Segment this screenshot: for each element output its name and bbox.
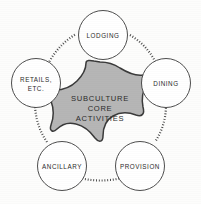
node-retails-circle[interactable] <box>12 59 61 108</box>
core-star-node: SUBCULTURE CORE ACTIVITIES <box>49 60 147 141</box>
core-label-line-1: SUBCULTURE <box>71 94 129 103</box>
node-retails[interactable]: RETAILS, ETC. <box>12 59 61 108</box>
connector-retails-lodging <box>48 34 76 64</box>
subculture-core-activities-diagram: SUBCULTURE CORE ACTIVITIES LODGING DININ… <box>0 0 201 204</box>
node-dining[interactable]: DINING <box>142 59 191 108</box>
connector-ancillary-retails <box>35 106 47 142</box>
node-dining-label: DINING <box>153 80 178 87</box>
node-ancillary[interactable]: ANCILLARY <box>38 142 87 191</box>
node-retails-label-line-1: RETAILS, <box>20 76 52 83</box>
node-provision-label: PROVISION <box>120 163 160 170</box>
diagram-canvas: SUBCULTURE CORE ACTIVITIES LODGING DININ… <box>0 0 201 204</box>
node-retails-label-line-2: ETC. <box>28 85 45 92</box>
connector-dining-provision <box>155 105 166 142</box>
core-label-line-2: CORE <box>88 104 113 113</box>
node-lodging[interactable]: LODGING <box>79 11 128 60</box>
node-provision[interactable]: PROVISION <box>116 142 165 191</box>
node-lodging-label: LODGING <box>87 32 120 39</box>
connector-provision-ancillary <box>80 178 122 181</box>
core-label-line-3: ACTIVITIES <box>76 114 124 123</box>
connector-lodging-dining <box>130 35 156 63</box>
node-ancillary-label: ANCILLARY <box>42 163 82 170</box>
